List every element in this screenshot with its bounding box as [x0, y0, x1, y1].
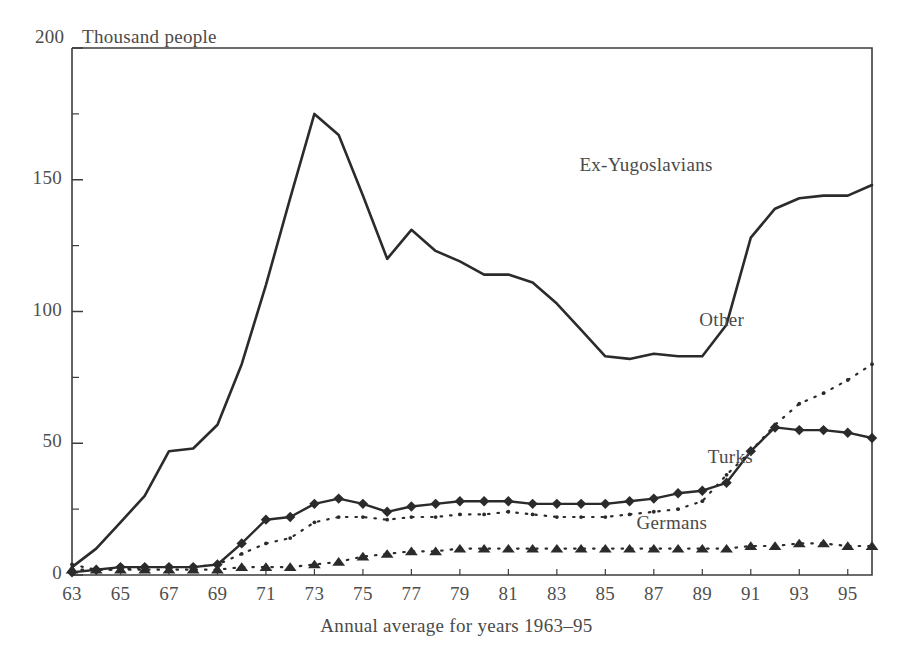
y-axis-top-tick: 200: [35, 26, 64, 48]
x-tick-label: 81: [483, 583, 533, 605]
data-point-triangle: [502, 544, 515, 553]
y-tick-label: 50: [10, 430, 62, 452]
data-point-diamond: [673, 488, 683, 498]
data-point-triangle: [235, 562, 248, 571]
data-point-dot: [458, 512, 462, 516]
data-point-dot: [264, 541, 268, 545]
data-point-diamond: [527, 499, 537, 509]
data-point-dot: [313, 520, 317, 524]
data-point-dot: [409, 515, 413, 519]
data-point-dot: [506, 510, 510, 514]
x-tick-label: 95: [823, 583, 873, 605]
x-tick-label: 67: [144, 583, 194, 605]
series-other: [70, 362, 874, 571]
x-tick-label: 71: [241, 583, 291, 605]
data-point-triangle: [817, 539, 830, 548]
data-point-diamond: [382, 507, 392, 517]
data-point-diamond: [649, 493, 659, 503]
data-point-dot: [846, 378, 850, 382]
series-label-ex-yugoslavians: Ex-Yugoslavians: [579, 154, 712, 176]
x-tick-label: 69: [192, 583, 242, 605]
data-point-triangle: [405, 547, 418, 556]
y-axis-ticks: [72, 48, 83, 575]
y-tick-label: 150: [10, 167, 62, 189]
data-point-dot: [628, 512, 632, 516]
y-tick-label: 100: [10, 299, 62, 321]
x-tick-label: 79: [435, 583, 485, 605]
x-tick-label: 83: [532, 583, 582, 605]
data-point-diamond: [455, 496, 465, 506]
data-point-triangle: [550, 544, 563, 553]
data-point-diamond: [309, 499, 319, 509]
data-point-triangle: [769, 541, 782, 550]
x-tick-label: 75: [338, 583, 388, 605]
data-point-dot: [385, 518, 389, 522]
data-point-triangle: [599, 544, 612, 553]
series-line: [72, 114, 872, 567]
data-point-triangle: [623, 544, 636, 553]
x-tick-label: 77: [386, 583, 436, 605]
data-point-triangle: [284, 562, 297, 571]
data-point-triangle: [211, 565, 224, 574]
data-point-dot: [725, 473, 729, 477]
data-point-dot: [531, 512, 535, 516]
data-point-dot: [700, 499, 704, 503]
plot-frame: [72, 48, 872, 575]
data-point-triangle: [841, 541, 854, 550]
x-tick-label: 87: [629, 583, 679, 605]
series-ex-yugoslavians: [72, 114, 872, 567]
data-point-triangle: [66, 565, 79, 574]
series-germans: [66, 539, 879, 574]
data-point-diamond: [479, 496, 489, 506]
data-point-dot: [603, 515, 607, 519]
data-point-dot: [676, 507, 680, 511]
data-point-diamond: [358, 499, 368, 509]
data-point-triangle: [332, 557, 345, 566]
x-tick-label: 63: [47, 583, 97, 605]
data-point-diamond: [843, 428, 853, 438]
series-label-turks: Turks: [708, 446, 753, 468]
data-point-dot: [361, 515, 365, 519]
x-tick-label: 93: [774, 583, 824, 605]
x-tick-label: 91: [726, 583, 776, 605]
data-point-dot: [797, 402, 801, 406]
data-point-dot: [482, 512, 486, 516]
data-point-diamond: [794, 425, 804, 435]
x-tick-label: 73: [289, 583, 339, 605]
y-axis-title: Thousand people: [82, 26, 217, 48]
data-point-triangle: [672, 544, 685, 553]
x-tick-label: 65: [95, 583, 145, 605]
chart-series-group: [66, 114, 879, 578]
data-point-dot: [579, 515, 583, 519]
y-tick-label: 0: [10, 562, 62, 584]
data-point-triangle: [453, 544, 466, 553]
data-point-diamond: [552, 499, 562, 509]
data-point-diamond: [406, 501, 416, 511]
data-point-dot: [822, 391, 826, 395]
data-point-diamond: [576, 499, 586, 509]
data-point-diamond: [333, 493, 343, 503]
data-point-diamond: [600, 499, 610, 509]
series-label-other: Other: [699, 309, 744, 331]
data-point-diamond: [285, 512, 295, 522]
data-point-dot: [240, 552, 244, 556]
x-tick-label: 85: [580, 583, 630, 605]
data-point-diamond: [503, 496, 513, 506]
data-point-dot: [337, 515, 341, 519]
chart-container: 200 Thousand people 050100150 6365676971…: [0, 0, 913, 658]
chart-plot-area: [0, 0, 913, 658]
data-point-diamond: [818, 425, 828, 435]
data-point-diamond: [697, 485, 707, 495]
series-label-germans: Germans: [637, 512, 708, 534]
data-point-dot: [555, 515, 559, 519]
data-point-diamond: [430, 499, 440, 509]
data-point-dot: [288, 536, 292, 540]
data-point-diamond: [624, 496, 634, 506]
data-point-dot: [870, 362, 874, 366]
data-point-dot: [434, 515, 438, 519]
x-tick-label: 89: [677, 583, 727, 605]
data-point-triangle: [720, 544, 733, 553]
data-point-diamond: [867, 433, 877, 443]
series-turks: [67, 422, 877, 577]
data-point-triangle: [381, 549, 394, 558]
